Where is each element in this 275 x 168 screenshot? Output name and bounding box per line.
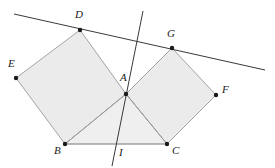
point-label-B: B — [54, 145, 61, 156]
point-label-I: I — [119, 147, 123, 158]
point-C[interactable] — [165, 142, 169, 146]
geometry-figure: ABCDEFGI — [0, 0, 275, 168]
point-D[interactable] — [78, 28, 82, 32]
point-label-E: E — [8, 58, 15, 69]
point-B[interactable] — [63, 142, 67, 146]
point-label-C: C — [172, 145, 179, 156]
point-label-F: F — [222, 84, 229, 95]
polygon-layer — [16, 30, 216, 144]
point-G[interactable] — [170, 46, 174, 50]
point-label-D: D — [75, 9, 83, 20]
geometry-canvas — [0, 0, 275, 168]
point-label-G: G — [167, 28, 175, 39]
point-F[interactable] — [214, 93, 218, 97]
point-E[interactable] — [14, 76, 18, 80]
point-A[interactable] — [124, 92, 128, 96]
point-label-A: A — [120, 72, 127, 83]
